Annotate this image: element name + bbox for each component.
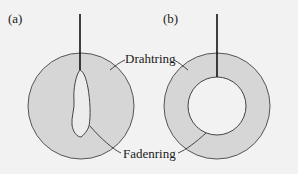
panel-label-a: (a) — [8, 12, 22, 25]
drahtring-label: Drahtring — [125, 52, 176, 65]
panel-a — [28, 14, 134, 159]
diagram-canvas: (a) (b) Drahtring Fadenring — [0, 0, 298, 174]
panel-label-b: (b) — [163, 12, 178, 25]
fadenring-label: Fadenring — [123, 147, 176, 160]
panel-b — [164, 14, 270, 159]
thread-ring-b — [188, 77, 246, 135]
